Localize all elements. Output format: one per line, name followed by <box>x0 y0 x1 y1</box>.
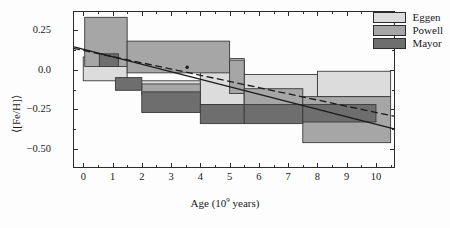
legend-swatch-powell <box>373 25 406 36</box>
x-tick-label: 10 <box>371 172 382 183</box>
x-axis-title: Age (109 years) <box>0 196 450 209</box>
x-tick-label: 2 <box>139 172 144 183</box>
x-axis-title-tail: years) <box>230 197 260 209</box>
legend-item-mayor: Mayor <box>373 38 443 49</box>
x-tick-label: 3 <box>168 172 173 183</box>
dashed-fit <box>73 48 395 116</box>
y-tick-label: −0.25 <box>27 104 51 115</box>
solid-fit <box>73 47 395 129</box>
y-tick-label: −0.50 <box>27 144 51 155</box>
x-axis-title-base: Age (10 <box>191 197 227 209</box>
legend-label: Powell <box>412 25 443 36</box>
y-tick-label: 0.0 <box>38 64 51 75</box>
legend-label: Mayor <box>412 38 441 49</box>
legend-label: Eggen <box>412 12 440 23</box>
legend-swatch-eggen <box>373 12 406 23</box>
legend-item-powell: Powell <box>373 25 443 36</box>
x-tick-label: 8 <box>315 172 320 183</box>
y-axis-title: ⟨[Fe/H]⟩ <box>10 95 23 132</box>
y-tick-label: 0.25 <box>33 25 51 36</box>
plot-area: 012345678910 <box>73 11 395 168</box>
x-tick-label: 4 <box>198 172 203 183</box>
x-tick-label: 9 <box>344 172 349 183</box>
x-tick-label: 6 <box>256 172 261 183</box>
legend: EggenPowellMayor <box>373 12 443 49</box>
figure-metallicity-vs-age: ⟨[Fe/H]⟩ Age (109 years) 012345678910 Eg… <box>0 0 450 228</box>
regression-lines-layer <box>73 11 395 168</box>
legend-swatch-mayor <box>373 38 406 49</box>
x-tick-label: 1 <box>110 172 115 183</box>
legend-item-eggen: Eggen <box>373 12 443 23</box>
x-tick-label: 7 <box>286 172 291 183</box>
data-point-marker <box>185 66 188 69</box>
x-tick-label: 0 <box>81 172 86 183</box>
x-tick-label: 5 <box>227 172 232 183</box>
